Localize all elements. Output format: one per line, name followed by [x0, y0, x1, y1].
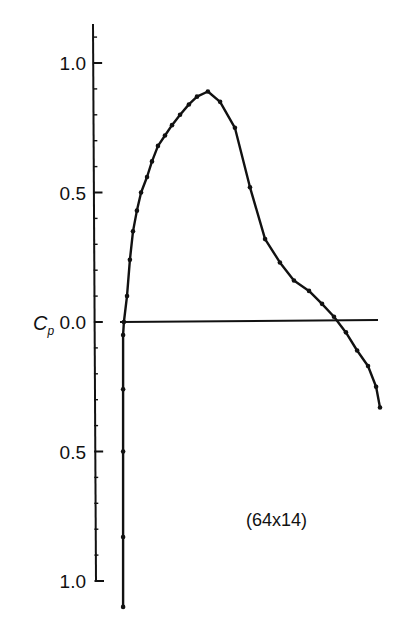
data-point	[344, 330, 349, 335]
data-point	[233, 125, 238, 130]
data-point	[122, 320, 127, 325]
cp-chart: 1.00.50.00.51.0 Cp (64x14)	[0, 0, 403, 629]
data-point	[307, 289, 312, 294]
data-point	[128, 258, 133, 263]
data-point	[156, 144, 161, 149]
data-point	[378, 405, 383, 410]
data-point	[163, 133, 168, 138]
data-point	[125, 294, 130, 299]
data-point	[332, 315, 337, 320]
data-point-markers	[121, 89, 382, 609]
data-point	[366, 364, 371, 369]
data-point	[195, 94, 200, 99]
y-axis-line	[93, 24, 96, 581]
data-point	[121, 605, 126, 610]
y-tick-label: 0.5	[60, 183, 86, 204]
y-axis-label: Cp	[33, 312, 54, 338]
y-axis	[93, 24, 104, 581]
data-point	[121, 333, 126, 338]
y-tick-labels: 1.00.50.00.51.0	[60, 53, 86, 592]
data-point	[355, 348, 360, 353]
zero-baseline	[120, 320, 378, 322]
data-point	[150, 159, 155, 164]
data-point	[292, 278, 297, 283]
data-point	[218, 100, 223, 105]
data-point	[145, 175, 150, 180]
data-point	[278, 260, 283, 265]
y-tick-label: 0.5	[60, 442, 86, 463]
data-point	[139, 190, 144, 195]
data-point	[170, 123, 175, 128]
data-point	[121, 449, 126, 454]
data-point	[135, 208, 140, 213]
data-point	[320, 302, 325, 307]
data-point	[374, 384, 379, 389]
data-point	[206, 89, 211, 94]
y-tick-label: 1.0	[60, 571, 86, 592]
data-point	[121, 387, 126, 392]
y-tick-label: 1.0	[60, 53, 86, 74]
data-point	[263, 237, 268, 242]
y-tick-label: 0.0	[60, 312, 86, 333]
grid-size-annotation: (64x14)	[246, 510, 307, 530]
data-point	[121, 535, 126, 540]
data-point	[178, 113, 183, 118]
data-point	[187, 102, 192, 107]
data-point	[248, 185, 253, 190]
data-point	[131, 229, 136, 234]
